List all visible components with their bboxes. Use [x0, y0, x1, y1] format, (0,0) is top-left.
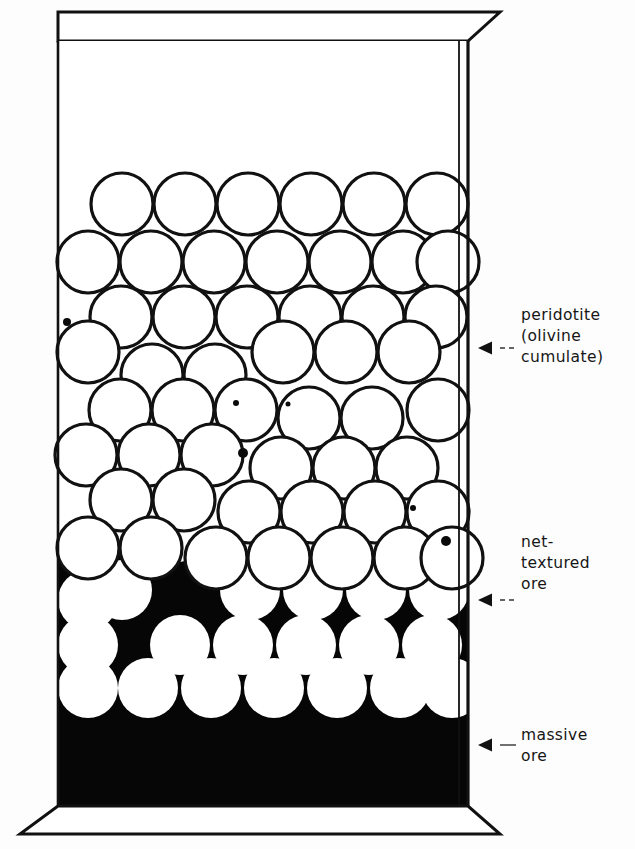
- olivine-grain: [421, 527, 483, 589]
- sulphide-bleb: [404, 506, 408, 510]
- olivine-grain: [154, 173, 216, 235]
- box-top-lip: [58, 12, 500, 41]
- ore-zonation-diagram: [0, 0, 635, 849]
- olivine-grain: [315, 321, 377, 383]
- olivine-grain: [185, 527, 247, 589]
- annotation-group: [478, 342, 516, 752]
- olivine-grain: [91, 173, 153, 235]
- sulphide-bleb: [233, 400, 239, 406]
- olivine-grain: [309, 231, 371, 293]
- olivine-grain: [417, 231, 479, 293]
- olivine-grain: [57, 231, 119, 293]
- annotation-arrowhead: [478, 342, 492, 355]
- olivine-grain: [280, 173, 342, 235]
- sulphide-bleb: [410, 505, 416, 511]
- sulphide-bleb: [286, 402, 291, 407]
- sulphide-bleb: [63, 318, 71, 326]
- olivine-grain: [378, 321, 440, 383]
- olivine-grain: [246, 231, 308, 293]
- olivine-grain-group-peridotite: [55, 173, 483, 589]
- olivine-grain: [311, 527, 373, 589]
- label-massive-ore: massive ore: [521, 725, 588, 767]
- figure-canvas: peridotite (olivine cumulate) net- textu…: [0, 0, 635, 849]
- label-peridotite: peridotite (olivine cumulate): [521, 305, 603, 368]
- olivine-grain: [183, 231, 245, 293]
- olivine-grain: [248, 527, 310, 589]
- olivine-grain: [343, 173, 405, 235]
- olivine-grain: [217, 173, 279, 235]
- olivine-grain: [57, 517, 119, 579]
- sulphide-bleb: [441, 536, 451, 546]
- annotation-arrowhead: [478, 739, 492, 752]
- sulphide-bleb: [238, 448, 248, 458]
- box-base: [20, 806, 500, 834]
- label-net-textured-ore: net- textured ore: [521, 532, 590, 595]
- olivine-grain: [57, 321, 119, 383]
- olivine-grain: [252, 321, 314, 383]
- olivine-grain: [153, 286, 215, 348]
- olivine-grain: [120, 517, 182, 579]
- olivine-grain: [120, 231, 182, 293]
- annotation-arrowhead: [478, 594, 492, 607]
